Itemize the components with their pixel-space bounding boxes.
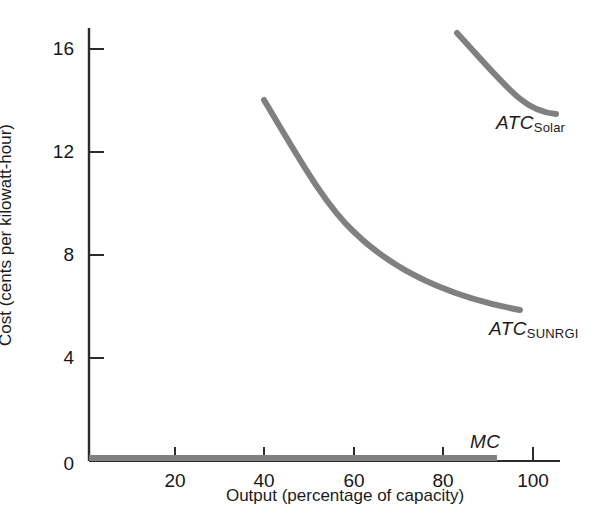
chart-plot-area <box>0 0 608 525</box>
x-tick-label-100: 100 <box>517 470 549 492</box>
series-label-atc-sunrgi: ATCSUNRGI <box>489 318 579 340</box>
series-line-atc-sunrgi <box>264 100 520 310</box>
series-label-mc: MC <box>470 431 500 453</box>
y-axis-title: Cost (cents per kilowatt-hour) <box>0 124 16 346</box>
series-label-atc-solar-base: ATC <box>496 112 534 133</box>
x-tick-label-20: 20 <box>164 470 185 492</box>
series-label-mc-base: MC <box>470 431 500 452</box>
x-axis-title: Output (percentage of capacity) <box>226 486 464 506</box>
y-tick-label-0: 0 <box>44 453 74 475</box>
y-axis-ticks <box>89 49 104 358</box>
series-label-atc-solar-sub: Solar <box>534 120 565 135</box>
series-label-atc-sunrgi-sub: SUNRGI <box>527 326 579 341</box>
y-tick-label-12: 12 <box>44 141 74 163</box>
series-line-atc-solar <box>457 33 556 114</box>
chart-container: 16 12 8 4 0 20 40 60 80 100 Cost (cents … <box>0 0 608 525</box>
y-tick-label-16: 16 <box>44 38 74 60</box>
y-tick-label-4: 4 <box>44 347 74 369</box>
series-label-atc-sunrgi-base: ATC <box>489 318 527 339</box>
y-tick-label-8: 8 <box>44 244 74 266</box>
series-label-atc-solar: ATCSolar <box>496 112 565 134</box>
